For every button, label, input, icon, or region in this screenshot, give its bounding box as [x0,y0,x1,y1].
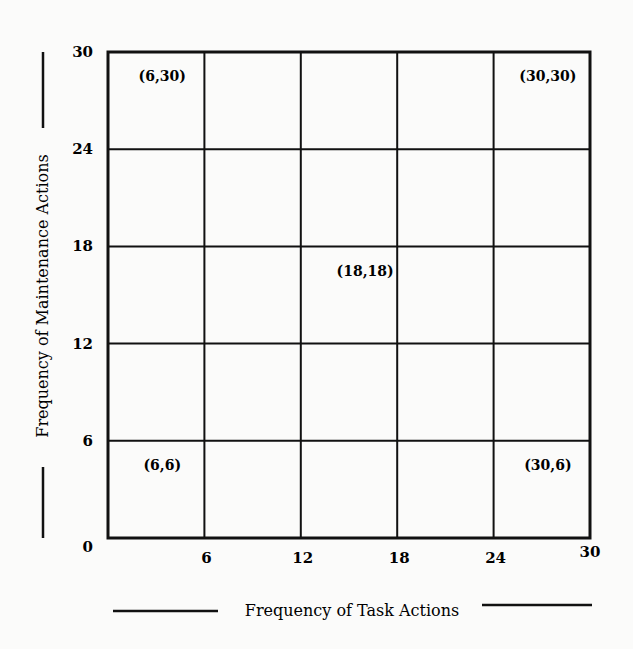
point-label: (18,18) [337,263,394,279]
y-tick-label: 12 [72,335,93,353]
x-tick-label: 18 [389,549,410,567]
x-tick-label: 6 [201,549,211,567]
y-tick-label: 6 [83,432,93,450]
y-axis-label: Frequency of Maintenance Actions [33,154,52,437]
y-tick-label: 30 [72,43,93,61]
x-tick-label: 12 [292,549,313,567]
point-label: (6,6) [143,457,181,473]
y-tick-label: 24 [72,140,93,158]
point-label: (30,6) [524,457,571,473]
x-tick-label: 24 [485,549,506,567]
y-axis-ticks: 0612182430 [72,43,93,556]
x-axis-ticks: 612182430 [201,543,600,567]
y-tick-label: 0 [83,538,93,556]
grid-chart: 0612182430 612182430 (6,30)(30,30)(18,18… [0,0,633,649]
x-axis-label: Frequency of Task Actions [245,601,459,620]
y-tick-label: 18 [72,237,93,255]
point-label: (30,30) [519,68,576,84]
x-tick-label: 30 [580,543,601,561]
point-label: (6,30) [139,68,186,84]
